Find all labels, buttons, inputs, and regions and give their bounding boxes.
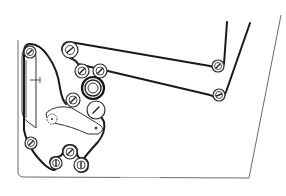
roller-mid-left [66,93,80,107]
roller-top-left-guide [62,42,78,58]
roller-bottom-left [25,137,37,149]
roller-upper-pair-left [75,64,89,78]
frame-outline [18,15,281,178]
pivot-icon [95,127,98,130]
roller-main-drum [82,77,104,99]
roller-bottom-center-right [74,158,88,172]
roller-right-lower [213,89,225,101]
roller-upper-pair-right [93,64,107,78]
sprocket [47,114,57,124]
roller-bottom-center-left [50,157,62,169]
diagram-canvas [0,0,286,196]
roller-mid-right [87,101,105,119]
roller-bottom-center-top [63,145,77,159]
roller-arm-top [24,46,36,58]
threading-diagram [0,0,286,196]
roller-right-upper [212,60,224,72]
